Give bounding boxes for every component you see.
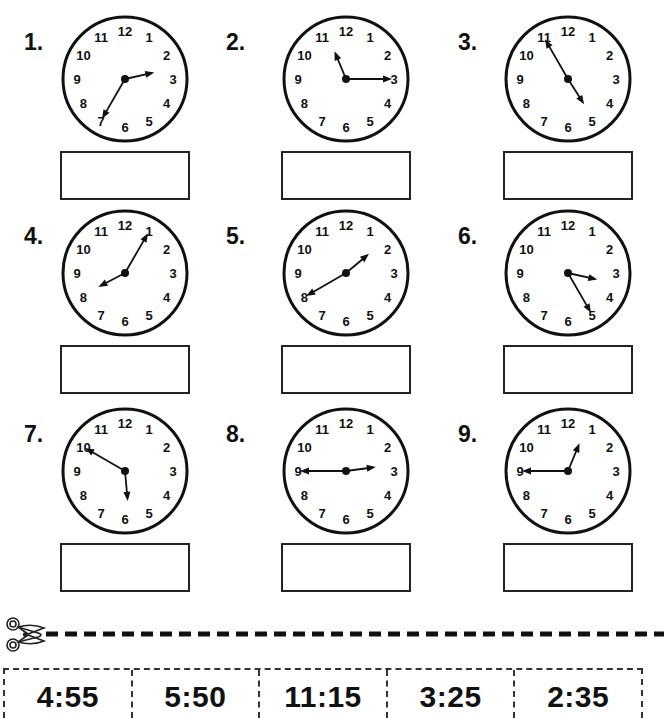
clock-numeral: 6 <box>564 120 571 135</box>
clock-numeral: 3 <box>612 464 619 479</box>
problem-number: 7. <box>24 421 43 448</box>
clock-numeral: 11 <box>315 422 329 437</box>
clock-numeral: 1 <box>145 30 152 45</box>
clock-numeral: 6 <box>342 314 349 329</box>
clock-numeral: 12 <box>561 416 575 431</box>
clock-numeral: 10 <box>297 48 311 63</box>
clock-numeral: 3 <box>390 464 397 479</box>
clock-face: 121234567891011 <box>280 207 412 339</box>
clock-numeral: 7 <box>540 114 547 129</box>
clock-numeral: 9 <box>294 464 301 479</box>
clock-numeral: 10 <box>519 242 533 257</box>
clock-numeral: 5 <box>366 308 373 323</box>
clock-face: 121234567891011 <box>59 13 191 145</box>
clock-numeral: 10 <box>76 48 90 63</box>
clock-numeral: 2 <box>384 440 391 455</box>
clock-numeral: 6 <box>121 512 128 527</box>
clock-numeral: 11 <box>537 422 551 437</box>
problem-number: 9. <box>458 421 477 448</box>
clock-numeral: 3 <box>390 266 397 281</box>
clock-numeral: 10 <box>297 242 311 257</box>
clock-numeral: 1 <box>366 30 373 45</box>
clock-numeral: 9 <box>294 266 301 281</box>
clock-numeral: 4 <box>606 290 614 305</box>
clock-face: 121234567891011 <box>502 13 634 145</box>
answer-card[interactable]: 3:25 <box>388 670 516 718</box>
clock-numeral: 7 <box>540 308 547 323</box>
answer-box[interactable] <box>503 543 633 592</box>
clock-numeral: 4 <box>163 290 171 305</box>
answer-box[interactable] <box>281 345 411 394</box>
answer-box[interactable] <box>281 151 411 200</box>
problem-number: 2. <box>226 29 245 56</box>
answer-box[interactable] <box>60 345 190 394</box>
clock-center-dot <box>342 269 350 277</box>
clock-numeral: 2 <box>606 242 613 257</box>
answer-box[interactable] <box>503 345 633 394</box>
clock-numeral: 3 <box>169 72 176 87</box>
clock-center-dot <box>564 269 572 277</box>
clock-numeral: 4 <box>606 488 614 503</box>
clock-numeral: 8 <box>301 96 308 111</box>
clock-numeral: 1 <box>588 224 595 239</box>
clock-numeral: 11 <box>94 30 108 45</box>
clock-numeral: 6 <box>564 512 571 527</box>
clock-numeral: 4 <box>384 290 392 305</box>
cut-line <box>0 612 664 656</box>
clock-numeral: 12 <box>118 218 132 233</box>
answer-box[interactable] <box>503 151 633 200</box>
clock-numeral: 7 <box>318 308 325 323</box>
clock-center-dot <box>121 75 129 83</box>
scissors-icon <box>7 618 44 651</box>
clock-numeral: 11 <box>315 30 329 45</box>
clock-numeral: 7 <box>97 506 104 521</box>
clock-numeral: 8 <box>523 488 530 503</box>
clock-numeral: 8 <box>301 488 308 503</box>
clock-numeral: 7 <box>540 506 547 521</box>
clock-numeral: 8 <box>80 488 87 503</box>
clock-numeral: 3 <box>390 72 397 87</box>
answer-box[interactable] <box>60 543 190 592</box>
problem-number: 8. <box>226 421 245 448</box>
clock-numeral: 5 <box>366 506 373 521</box>
answer-card[interactable]: 5:50 <box>133 670 261 718</box>
clock-numeral: 12 <box>339 218 353 233</box>
answer-box[interactable] <box>281 543 411 592</box>
clock-numeral: 6 <box>342 120 349 135</box>
clock-numeral: 5 <box>145 308 152 323</box>
clock-numeral: 5 <box>366 114 373 129</box>
clock-numeral: 12 <box>118 24 132 39</box>
clock-numeral: 3 <box>612 72 619 87</box>
answer-card[interactable]: 11:15 <box>260 670 388 718</box>
clock-face: 121234567891011 <box>502 405 634 537</box>
answer-cut-strip: 4:55 5:50 11:15 3:25 2:35 <box>3 668 643 718</box>
clock-numeral: 4 <box>384 96 392 111</box>
clock-numeral: 6 <box>121 314 128 329</box>
clock-face: 121234567891011 <box>502 207 634 339</box>
problem-number: 5. <box>226 223 245 250</box>
answer-card[interactable]: 2:35 <box>515 670 641 718</box>
clock-numeral: 10 <box>297 440 311 455</box>
clock-numeral: 2 <box>384 242 391 257</box>
clock-center-dot <box>564 75 572 83</box>
clock-numeral: 7 <box>318 114 325 129</box>
clock-numeral: 11 <box>94 224 108 239</box>
clock-center-dot <box>121 467 129 475</box>
clock-numeral: 6 <box>564 314 571 329</box>
clock-numeral: 12 <box>561 24 575 39</box>
clock-numeral: 8 <box>80 96 87 111</box>
answer-box[interactable] <box>60 151 190 200</box>
problem-number: 4. <box>24 223 43 250</box>
clock-numeral: 6 <box>121 120 128 135</box>
clock-numeral: 12 <box>339 24 353 39</box>
clock-face: 121234567891011 <box>280 405 412 537</box>
clock-numeral: 1 <box>366 422 373 437</box>
clock-numeral: 5 <box>588 506 595 521</box>
clock-numeral: 9 <box>516 72 523 87</box>
clock-center-dot <box>342 75 350 83</box>
answer-card[interactable]: 4:55 <box>5 670 133 718</box>
clock-numeral: 9 <box>516 464 523 479</box>
clock-numeral: 3 <box>612 266 619 281</box>
problem-number: 1. <box>24 29 43 56</box>
clock-numeral: 2 <box>384 48 391 63</box>
